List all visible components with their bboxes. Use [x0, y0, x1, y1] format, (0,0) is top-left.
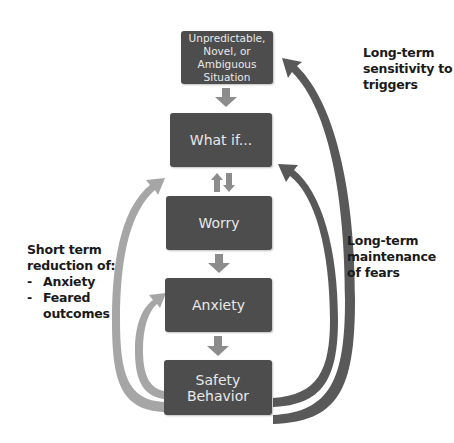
node-situation-line-2: Novel, or Ambiguous: [183, 45, 271, 71]
annotation-line: Short term: [27, 242, 115, 258]
annotation-short-term-reduction: Short term reduction of: - Anxiety - Fea…: [27, 242, 115, 322]
annotation-list-item: outcomes: [27, 306, 115, 322]
list-item-text: outcomes: [43, 306, 110, 322]
annotation-line: Long-term: [363, 45, 452, 61]
list-item-text: Feared: [43, 290, 90, 306]
annotation-line: Long-term: [347, 233, 436, 249]
node-situation: Unpredictable, Novel, or Ambiguous Situa…: [181, 31, 273, 84]
annotation-line: triggers: [363, 77, 452, 93]
curved-arrow-right-outer-icon: [273, 58, 355, 424]
annotation-line: maintenance: [347, 249, 436, 265]
node-worry-label: Worry: [198, 215, 239, 231]
annotation-line: sensitivity to: [363, 61, 452, 77]
node-worry: Worry: [166, 196, 272, 250]
bullet-dash: -: [27, 274, 43, 290]
node-safety-behavior: Safety Behavior: [164, 360, 272, 415]
bidirectional-arrow-icon: [211, 173, 235, 192]
annotation-line: of fears: [347, 265, 436, 281]
node-situation-line-1: Unpredictable,: [183, 32, 271, 45]
curved-arrow-left-inner-icon: [135, 293, 166, 399]
node-safety-behavior-label: Safety Behavior: [164, 372, 272, 404]
node-anxiety-label: Anxiety: [192, 297, 245, 313]
bullet-spacer: [27, 306, 43, 322]
annotation-long-term-sensitivity: Long-term sensitivity to triggers: [363, 45, 452, 93]
node-situation-line-3: Situation: [183, 71, 271, 84]
bullet-dash: -: [27, 290, 43, 306]
annotation-long-term-maintenance: Long-term maintenance of fears: [347, 233, 436, 281]
down-arrow-icon: [208, 254, 230, 273]
node-what-if: What if...: [170, 113, 272, 167]
node-anxiety: Anxiety: [165, 278, 272, 332]
down-arrow-icon: [215, 88, 237, 107]
node-what-if-label: What if...: [190, 132, 252, 148]
annotation-list-item: - Feared: [27, 290, 115, 306]
annotation-list-item: - Anxiety: [27, 274, 115, 290]
down-arrow-icon: [207, 336, 229, 356]
list-item-text: Anxiety: [43, 274, 95, 290]
annotation-list: - Anxiety - Feared outcomes: [27, 274, 115, 322]
annotation-line: reduction of:: [27, 258, 115, 274]
curved-arrow-right-inner-icon: [273, 164, 338, 407]
